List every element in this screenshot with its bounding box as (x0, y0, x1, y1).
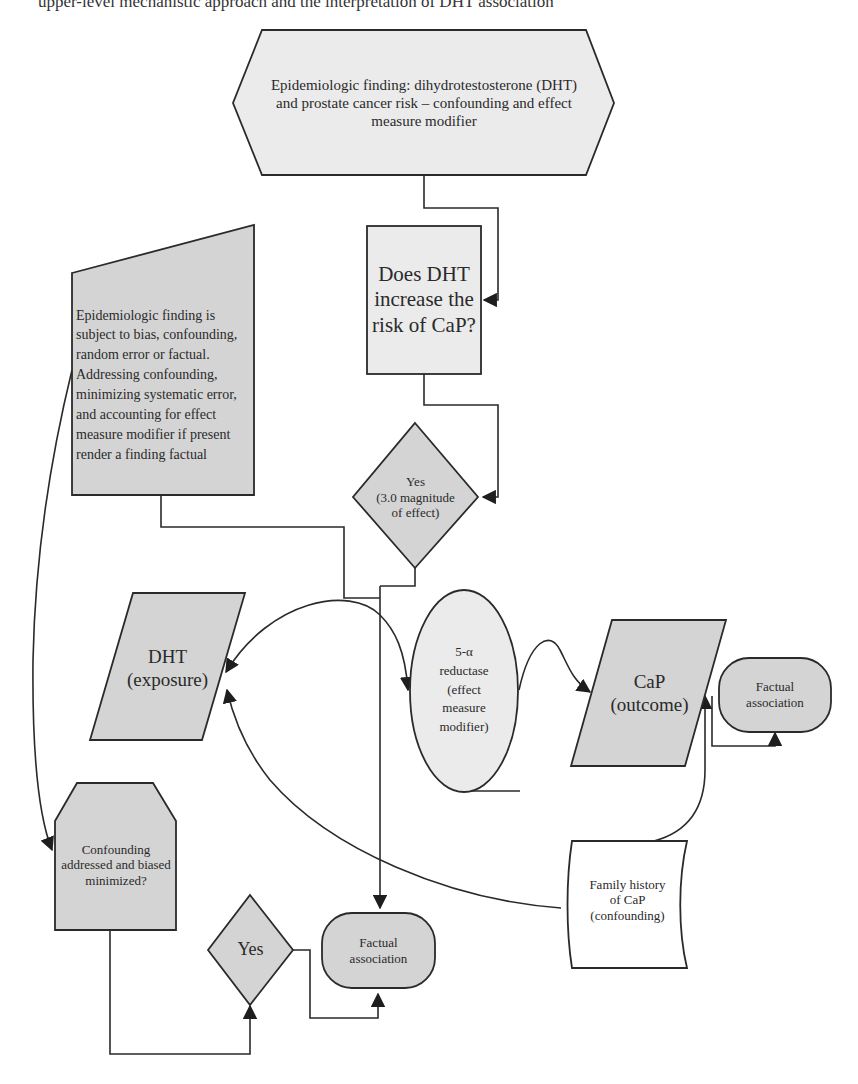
node-cap-outcome-line1: CaP (634, 671, 666, 694)
node-bias-note: Epidemiologic finding is subject to bias… (76, 290, 254, 480)
node-reductase-line4: measure (442, 699, 485, 718)
node-family-history-line3: (confounding) (590, 908, 664, 924)
node-yes-magnitude: Yes (3.0 magnitude of effect) (353, 465, 478, 530)
node-confounding-check: Confounding addressed and biased minimiz… (56, 830, 176, 900)
page-caption: upper-level mechanistic approach and the… (38, 0, 554, 12)
node-factual-bottom-line2: association (350, 951, 408, 967)
node-yes-bottom: Yes (208, 935, 293, 965)
node-factual-bottom-line1: Factual (359, 935, 397, 951)
node-dht-exposure-line2: (exposure) (127, 669, 208, 692)
edge-reductase-cap (519, 640, 590, 692)
node-question-text: Does DHT increase the risk of CaP? (369, 262, 479, 338)
node-reductase-line3: (effect (447, 681, 481, 700)
node-cap-outcome: CaP (outcome) (592, 665, 707, 723)
node-reductase-line2: reductase (439, 662, 488, 681)
node-family-history-line1: Family history (589, 877, 665, 893)
node-reductase-line1: 5-α (455, 643, 473, 662)
node-confounding-check-text: Confounding addressed and biased minimiz… (56, 842, 176, 889)
node-family-history-line2: of CaP (610, 892, 646, 908)
edge-bias-to-confounding (33, 370, 72, 850)
edge-yes-to-center (380, 568, 415, 586)
node-family-history: Family history of CaP (confounding) (570, 865, 685, 935)
edge-bias-to-center (161, 495, 380, 598)
node-yes-bottom-text: Yes (237, 939, 263, 961)
node-dht-exposure-line1: DHT (148, 646, 187, 669)
node-bias-note-text: Epidemiologic finding is subject to bias… (76, 306, 254, 465)
node-question: Does DHT increase the risk of CaP? (369, 228, 479, 372)
node-reductase: 5-α reductase (effect measure modifier) (414, 640, 514, 740)
node-dht-exposure: DHT (exposure) (110, 640, 225, 698)
node-factual-right-line1: Factual (756, 679, 794, 695)
node-top-finding-text: Epidemiologic finding: dihydrotestostero… (262, 76, 586, 130)
node-yes-magnitude-line3: of effect) (392, 505, 440, 521)
node-cap-outcome-line2: (outcome) (610, 694, 688, 717)
node-top-finding: Epidemiologic finding: dihydrotestostero… (262, 48, 586, 158)
node-reductase-line5: modifier) (439, 718, 488, 737)
node-factual-bottom: Factual association (322, 913, 435, 988)
node-yes-magnitude-line2: (3.0 magnitude (376, 490, 455, 506)
node-yes-magnitude-line1: Yes (406, 474, 425, 490)
node-factual-right: Factual association (719, 658, 831, 732)
node-factual-right-line2: association (746, 695, 804, 711)
